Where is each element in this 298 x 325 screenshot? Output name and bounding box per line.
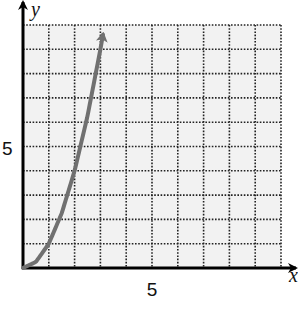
chart: x y 5 5 — [0, 0, 298, 325]
y-axis-label: y — [29, 0, 40, 21]
x-tick-label-5: 5 — [147, 279, 158, 300]
x-axis-label: x — [288, 264, 298, 286]
y-tick-label-5: 5 — [2, 138, 13, 159]
